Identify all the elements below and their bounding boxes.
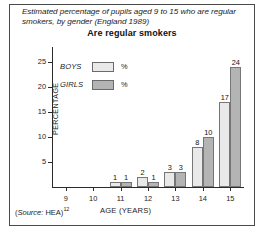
x-tick xyxy=(230,187,231,191)
x-tick-label: 14 xyxy=(191,194,215,203)
bar-boys-age-15: 17 xyxy=(219,102,230,187)
y-tick xyxy=(48,62,53,63)
bar-girls-age-12: 1 xyxy=(148,182,159,187)
x-tick-label: 9 xyxy=(54,194,78,203)
x-tick xyxy=(175,187,176,191)
source-superscript: 12 xyxy=(63,206,69,212)
bar-value-label: 1 xyxy=(113,173,117,182)
figure-caption: Estimated percentage of pupils aged 9 to… xyxy=(22,7,246,26)
y-tick-label: 25 xyxy=(38,57,46,66)
y-tick-label: 15 xyxy=(38,107,46,116)
x-tick-label: 13 xyxy=(163,194,187,203)
x-tick-label: 11 xyxy=(109,194,133,203)
bar-value-label: 17 xyxy=(221,93,229,102)
bar-boys-age-13: 3 xyxy=(164,172,175,187)
bar-boys-age-12: 2 xyxy=(137,177,148,187)
bar-value-label: 8 xyxy=(195,138,199,147)
source-word: Source: xyxy=(18,208,44,217)
x-tick xyxy=(93,187,94,191)
y-tick-label: 5 xyxy=(42,157,46,166)
y-tick xyxy=(48,137,53,138)
x-tick-label: 15 xyxy=(218,194,242,203)
figure-container: Estimated percentage of pupils aged 9 to… xyxy=(0,0,262,234)
x-tick-label: 12 xyxy=(136,194,160,203)
source-note: (Source: HEA)12 xyxy=(15,206,69,217)
x-tick xyxy=(121,187,122,191)
x-tick xyxy=(66,187,67,191)
bar-value-label: 10 xyxy=(204,128,212,137)
bar-girls-age-13: 3 xyxy=(175,172,186,187)
y-tick xyxy=(48,162,53,163)
y-axis-title: PERCENTAGE xyxy=(51,83,60,136)
bar-boys-age-11: 1 xyxy=(110,182,121,187)
x-tick xyxy=(148,187,149,191)
bar-value-label: 3 xyxy=(168,163,172,172)
bar-boys-age-14: 8 xyxy=(192,147,203,187)
y-tick-label: 10 xyxy=(38,132,46,141)
x-tick-label: 10 xyxy=(81,194,105,203)
bar-girls-age-11: 1 xyxy=(121,182,132,187)
bar-value-label: 3 xyxy=(179,163,183,172)
plot-area: 510152025 9101112131415 1121338101724 PE… xyxy=(52,47,244,187)
bar-value-label: 24 xyxy=(232,58,240,67)
x-axis-title: AGE (YEARS) xyxy=(100,206,151,215)
chart-title: Are regular smokers xyxy=(9,28,255,38)
y-tick-label: 20 xyxy=(38,82,46,91)
bar-girls-age-14: 10 xyxy=(203,137,214,187)
bar-value-label: 2 xyxy=(140,168,144,177)
source-body: HEA) xyxy=(43,208,63,217)
bar-girls-age-15: 24 xyxy=(230,67,241,187)
x-tick xyxy=(203,187,204,191)
bar-value-label: 1 xyxy=(151,173,155,182)
bar-value-label: 1 xyxy=(124,173,128,182)
